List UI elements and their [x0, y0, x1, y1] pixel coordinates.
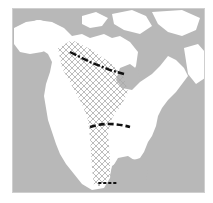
north-america-map: [12, 8, 205, 193]
map-frame: [12, 8, 205, 193]
land-alaska: [14, 20, 56, 54]
